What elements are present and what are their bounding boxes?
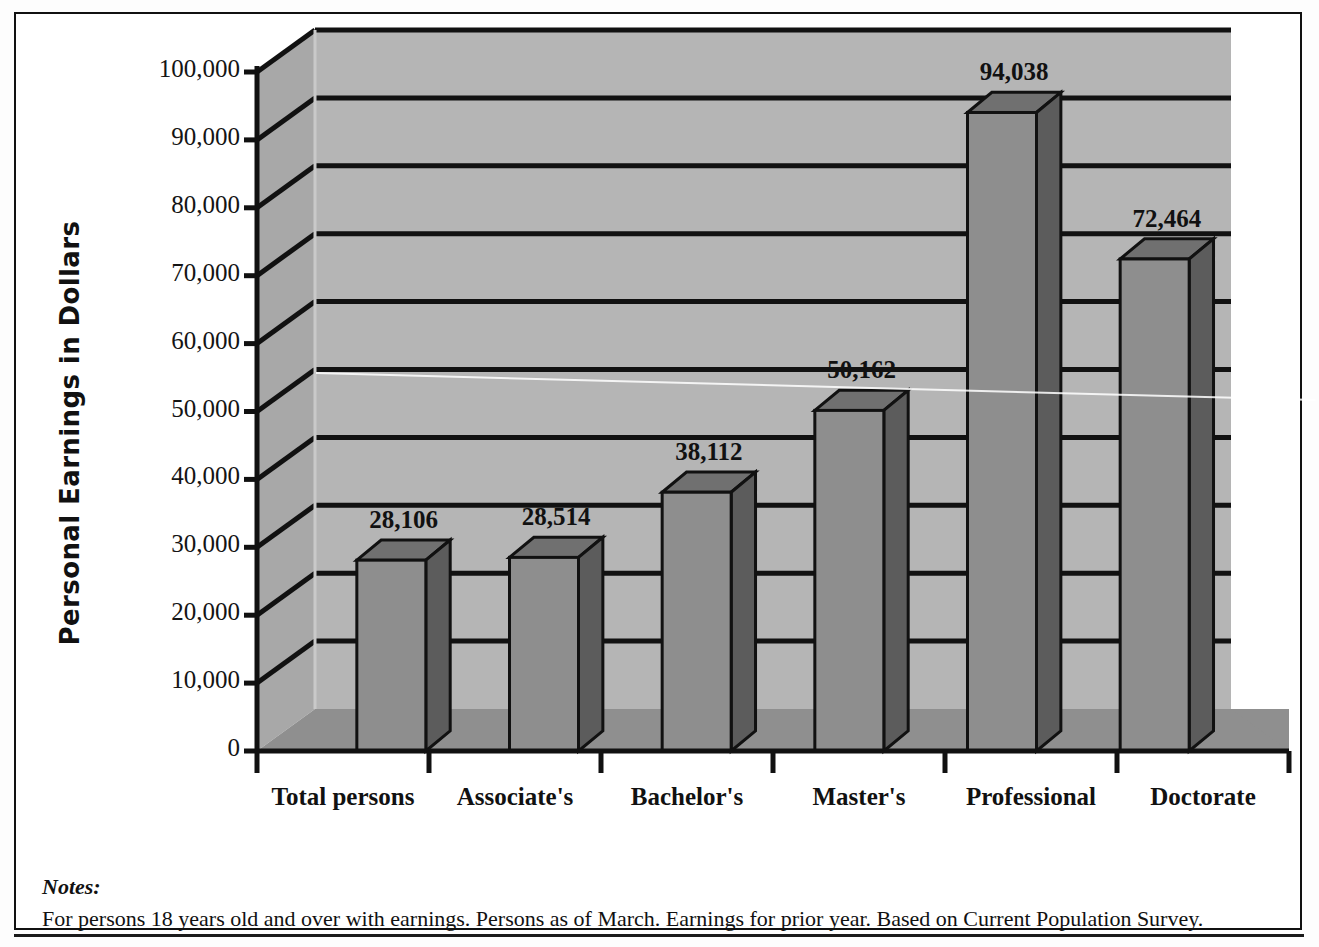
y-axis-tick-label: 100,000 [90, 55, 240, 83]
bottom-rule [14, 934, 1304, 937]
bar-column[interactable] [510, 537, 603, 751]
bar-value-label: 50,162 [782, 356, 942, 384]
y-axis-tick-label: 0 [90, 734, 240, 762]
bar-column[interactable] [662, 472, 755, 751]
bar-value-label: 94,038 [934, 58, 1094, 86]
y-axis-tick-label: 70,000 [90, 259, 240, 287]
plot-right-gap [1231, 30, 1289, 709]
y-axis-tick-label: 10,000 [90, 666, 240, 694]
y-axis-tick-label: 80,000 [90, 191, 240, 219]
bar-value-label: 72,464 [1087, 205, 1247, 233]
notes-section: Notes: For persons 18 years old and over… [42, 874, 1292, 933]
bar-column[interactable] [357, 540, 450, 751]
chart-frame: Personal Earnings in Dollars 010,00020,0… [14, 12, 1302, 930]
y-axis-tick-label: 40,000 [90, 462, 240, 490]
bar-column[interactable] [1120, 239, 1213, 751]
y-axis-tick-label: 90,000 [90, 123, 240, 151]
y-axis-tick-label: 60,000 [90, 327, 240, 355]
y-axis-tick-label: 20,000 [90, 598, 240, 626]
bar-value-label: 28,106 [324, 506, 484, 534]
y-axis-title: Personal Earnings in Dollars [55, 173, 85, 693]
notes-heading: Notes: [42, 874, 1292, 900]
bar-value-label: 38,112 [629, 438, 789, 466]
x-axis-category-label: Doctorate [1093, 783, 1313, 811]
y-axis-tick-label: 30,000 [90, 530, 240, 558]
bar-column[interactable] [968, 92, 1061, 751]
chart-page: Personal Earnings in Dollars 010,00020,0… [0, 0, 1319, 947]
bar-column[interactable] [815, 390, 908, 751]
y-axis-tick-label: 50,000 [90, 395, 240, 423]
bar-value-label: 28,514 [476, 503, 636, 531]
notes-body: For persons 18 years old and over with e… [42, 905, 1292, 933]
